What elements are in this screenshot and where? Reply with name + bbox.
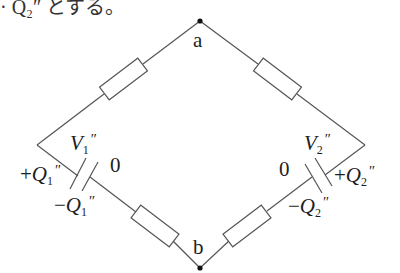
capacitor-right (305, 158, 332, 193)
node-a-dot (197, 18, 202, 23)
minus-q2-main: Q (300, 194, 315, 218)
label-plus-q2: +Q2″ (334, 165, 374, 186)
plus-q1-sign: + (20, 162, 32, 186)
plus-q1-sub: 1 (47, 174, 53, 188)
plus-q2-main: Q (346, 163, 361, 187)
capacitor-left (70, 158, 98, 191)
minus-q1-sign: − (54, 193, 66, 217)
plus-q2-sub: 2 (361, 175, 367, 189)
node-b-label: b (193, 237, 204, 258)
zero-left-label: 0 (110, 155, 121, 176)
circuit-diagram: · Q₂″ とする。 (0, 0, 400, 273)
plus-q2-sign: + (334, 163, 346, 187)
label-v1: V1″ (70, 133, 96, 154)
v2-sub: 2 (317, 143, 323, 157)
minus-q1-main: Q (66, 193, 81, 217)
minus-q2-prime: ″ (322, 194, 328, 210)
zero-right-label: 0 (279, 159, 290, 180)
plus-q1-main: Q (32, 162, 47, 186)
minus-q2-sign: − (288, 194, 300, 218)
v2-prime: ″ (324, 131, 330, 147)
resistor-upper-right (254, 58, 302, 100)
label-minus-q2: −Q2″ (288, 196, 328, 217)
plus-q2-prime: ″ (368, 163, 374, 179)
minus-q2-sub: 2 (315, 206, 321, 220)
resistor-upper-left (100, 58, 148, 100)
label-minus-q1: −Q1″ (54, 195, 94, 216)
plus-q1-prime: ″ (54, 162, 60, 178)
resistor-lower-left (131, 205, 179, 247)
node-b-dot (197, 265, 202, 270)
resistor-lower-right (223, 205, 271, 247)
label-plus-q1: +Q1″ (20, 164, 60, 185)
v2-main: V (304, 131, 317, 155)
minus-q1-prime: ″ (88, 193, 94, 209)
v1-prime: ″ (90, 131, 96, 147)
label-v2: V2″ (304, 133, 330, 154)
minus-q1-sub: 1 (81, 205, 87, 219)
node-a-label: a (193, 30, 202, 51)
v1-sub: 1 (83, 143, 89, 157)
v1-main: V (70, 131, 83, 155)
